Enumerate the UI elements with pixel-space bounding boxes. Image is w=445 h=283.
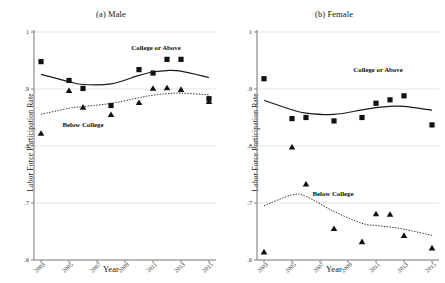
data-point-square [331,118,336,123]
data-point-triangle [38,130,45,136]
data-point-square [303,115,308,120]
trend-line [41,93,209,114]
y-tick-label: .9 [247,85,252,92]
data-point-triangle [289,144,296,150]
data-point-square [373,101,378,106]
trend-line [41,70,209,85]
y-tick-label: .8 [247,142,252,149]
data-point-triangle [387,211,394,217]
panel-male: (a) Male Labor Force Participation Rate … [0,0,222,283]
data-point-triangle [373,211,380,217]
series-label-college-or-above: College or Above [131,44,180,51]
data-point-triangle [303,181,310,187]
series-label-below-college: Below College [313,190,354,197]
data-point-triangle [261,249,268,255]
data-point-square [401,93,406,98]
y-tick-label: 1 [26,28,29,35]
y-tick-label: .7 [247,199,252,206]
data-point-square [178,57,183,62]
y-tick-label: .8 [24,142,29,149]
data-point-triangle [108,111,115,117]
series-label-college-or-above: College or Above [353,66,402,73]
data-point-square [66,78,71,83]
data-point-triangle [136,99,143,105]
data-point-square [289,116,294,121]
series-label-below-college: Below College [63,121,104,128]
data-point-triangle [150,85,157,91]
data-point-triangle [80,104,87,110]
data-point-triangle [429,245,436,251]
x-axis-label: Year [0,265,222,274]
data-point-square [38,59,43,64]
y-tick-label: .6 [24,256,29,263]
data-point-square [359,115,364,120]
trend-line [264,100,432,114]
x-axis-label: Year [223,265,445,274]
y-tick-label: .7 [24,199,29,206]
data-point-triangle [331,225,338,231]
series-below-college [38,85,213,136]
data-point-triangle [66,88,73,94]
data-point-square [429,122,434,127]
data-point-square [164,57,169,62]
y-tick-label: .6 [247,256,252,263]
panel-female: (b) Female Labor Force Participation Rat… [223,0,445,283]
data-point-triangle [401,232,408,238]
data-point-square [387,97,392,102]
y-tick-label: 1 [249,28,252,35]
series-below-college [261,144,436,254]
trend-line [264,194,432,235]
y-tick-label: .9 [24,85,29,92]
data-point-triangle [164,85,171,91]
plot-area-female: 1.9.8.7.62003200520072009201120132015Col… [223,0,445,283]
figure-container: (a) Male Labor Force Participation Rate … [0,0,445,283]
plot-area-male: 1.9.8.7.62003200520072009201120132015Col… [0,0,222,283]
data-point-square [80,86,85,91]
data-point-square [150,70,155,75]
data-point-square [261,76,266,81]
data-point-square [136,67,141,72]
data-point-triangle [359,239,366,245]
series-college-or-above [261,76,434,127]
